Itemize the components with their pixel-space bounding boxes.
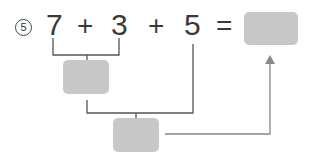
connector-lines xyxy=(0,0,312,162)
arrow-head-icon xyxy=(265,55,275,64)
bracket-first-pair xyxy=(53,38,119,60)
result-arrow xyxy=(165,63,270,134)
